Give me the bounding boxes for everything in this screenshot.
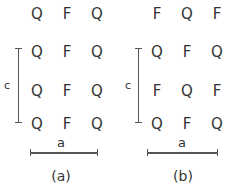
lattice-site: F (202, 4, 232, 24)
lattice-site: Q (22, 114, 52, 134)
lattice-row: Q F Q (142, 114, 232, 134)
lattice-site: F (52, 42, 82, 62)
lattice-row: F Q F (142, 4, 232, 24)
lattice-row: Q F Q (142, 42, 232, 62)
a-serif-right (97, 149, 98, 156)
a-rule (147, 152, 218, 154)
c-rule (138, 48, 139, 122)
c-label: c (4, 80, 10, 91)
lattice-site: Q (142, 114, 172, 134)
lattice-site: Q (142, 42, 172, 62)
lattice-row: Q F Q (22, 42, 112, 62)
a-label: a (178, 136, 186, 149)
lattice-row: Q F Q (22, 4, 112, 24)
lattice-site: F (172, 42, 202, 62)
figure-canvas: Q F Q Q F Q Q F Q Q F Q (0, 0, 244, 194)
lattice-site: Q (22, 42, 52, 62)
lattice-site: Q (82, 114, 112, 134)
a-serif-right (217, 149, 218, 156)
lattice-site: F (52, 4, 82, 24)
lattice-grid-b: F Q F Q F Q F Q F Q F Q (122, 0, 244, 140)
c-rule (18, 48, 19, 122)
lattice-site: F (142, 81, 172, 101)
lattice-site: F (52, 114, 82, 134)
c-label: c (125, 80, 131, 91)
lattice-site: Q (82, 42, 112, 62)
lattice-site: Q (82, 4, 112, 24)
lattice-row: Q F Q (22, 114, 112, 134)
panel-b: F Q F Q F Q F Q F Q F Q (122, 0, 244, 194)
lattice-site: Q (202, 114, 232, 134)
lattice-row: F Q F (142, 81, 232, 101)
a-label: a (57, 136, 65, 149)
lattice-site: Q (202, 42, 232, 62)
lattice-site: F (52, 81, 82, 101)
lattice-site: Q (22, 81, 52, 101)
panel-caption-b: (b) (122, 168, 244, 184)
lattice-site: F (142, 4, 172, 24)
c-serif-bottom (135, 122, 142, 123)
lattice-site: Q (22, 4, 52, 24)
lattice-site: Q (172, 81, 202, 101)
panel-a: Q F Q Q F Q Q F Q Q F Q (0, 0, 122, 194)
c-serif-bottom (15, 122, 22, 123)
lattice-site: F (172, 114, 202, 134)
lattice-site: Q (82, 81, 112, 101)
a-rule (30, 152, 98, 154)
lattice-site: Q (172, 4, 202, 24)
panel-caption-a: (a) (0, 168, 122, 184)
lattice-site: F (202, 81, 232, 101)
lattice-row: Q F Q (22, 81, 112, 101)
